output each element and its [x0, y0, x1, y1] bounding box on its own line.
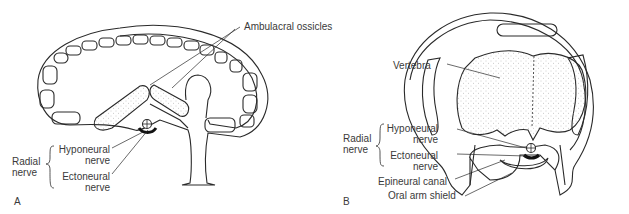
- label-hyponeural-nerve-b: Hyponeural nerve: [386, 123, 438, 145]
- label-epineural-canal: Epineural canal: [378, 176, 447, 187]
- label-ambulacral-ossicles: Ambulacral ossicles: [244, 21, 332, 32]
- label-ectoneural-nerve-a: Ectoneural nerve: [56, 171, 110, 193]
- label-ectoneural-nerve-b: Ectoneural nerve: [386, 150, 438, 172]
- label-radial-nerve-a: Radial nerve: [12, 156, 40, 178]
- panel-letter-a: A: [14, 196, 21, 207]
- label-oral-arm-shield: Oral arm shield: [388, 190, 456, 201]
- panel-letter-b: B: [343, 196, 350, 207]
- label-hyponeural-nerve-a: Hyponeural nerve: [56, 144, 110, 166]
- label-radial-nerve-b: Radial nerve: [343, 133, 371, 155]
- diagram-figure: Ambulacral ossicles Hyponeural nerve Ect…: [0, 0, 629, 214]
- label-vertebra: Vertebra: [393, 60, 431, 71]
